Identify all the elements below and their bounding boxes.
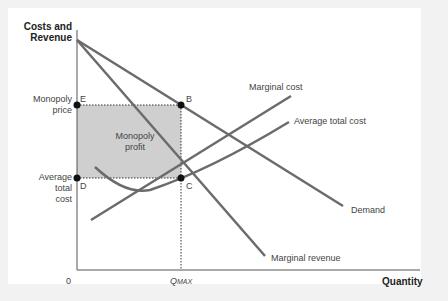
qmax-label: QMAX — [170, 276, 192, 287]
monopoly-profit-label: Monopolyprofit — [110, 131, 160, 153]
point-b — [178, 102, 185, 109]
average-total-cost-axis-label: Averagetotalcost — [39, 172, 72, 205]
point-c-label: C — [186, 181, 193, 192]
marginal-revenue-label: Marginal revenue — [271, 253, 341, 264]
marginal-cost-label: Marginal cost — [249, 82, 303, 93]
monopoly-price-label: Monopolyprice — [33, 94, 72, 116]
average-total-cost-curve-label: Average total cost — [294, 116, 366, 127]
point-c — [178, 175, 185, 182]
chart-canvas — [0, 0, 448, 301]
point-e-label: E — [80, 94, 86, 105]
point-d-label: D — [80, 181, 87, 192]
origin-label: 0 — [66, 276, 71, 287]
x-axis-label: Quantity — [382, 276, 423, 287]
demand-label: Demand — [351, 205, 385, 216]
point-b-label: B — [186, 94, 192, 105]
y-axis-label: Costs andRevenue — [24, 21, 72, 43]
